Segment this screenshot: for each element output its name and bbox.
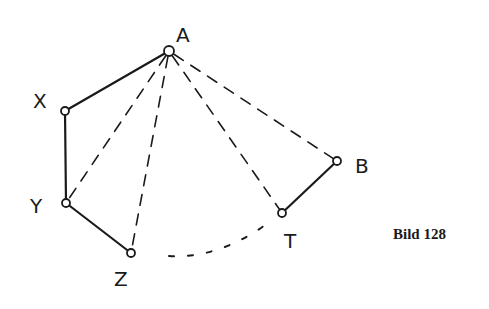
point-label-T: T	[283, 229, 297, 253]
point-A	[164, 46, 174, 56]
dashed-segment-AB	[169, 51, 337, 161]
segment-TB	[282, 161, 337, 213]
segment-YZ	[66, 203, 131, 253]
segment-AX	[65, 51, 169, 111]
geometry-figure: AXYZTB	[0, 0, 489, 309]
dashed-segment-AZ	[131, 51, 169, 253]
segment-XY	[65, 111, 66, 203]
dashed-segment-AY	[66, 51, 169, 203]
point-Z	[127, 249, 135, 257]
point-label-B: B	[355, 154, 369, 178]
point-label-Z: Z	[114, 267, 128, 291]
point-B	[333, 157, 341, 165]
dashed-segment-AT	[169, 51, 282, 213]
point-X	[61, 107, 69, 115]
point-label-X: X	[33, 89, 47, 113]
dotted-arc-ZT	[169, 223, 268, 256]
point-Y	[62, 199, 70, 207]
point-label-A: A	[176, 23, 190, 47]
point-label-Y: Y	[29, 194, 43, 218]
figure-caption: Bild 128	[393, 226, 446, 243]
point-T	[278, 209, 286, 217]
